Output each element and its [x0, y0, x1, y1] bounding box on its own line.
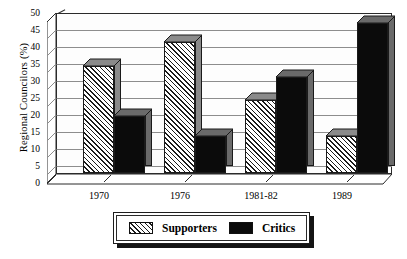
- x-tick-label-1989: 1989: [312, 190, 372, 201]
- bar-supporters-1989: [326, 129, 357, 173]
- bar-face: [83, 66, 114, 173]
- bar-face: [195, 136, 226, 173]
- bar-face: [357, 23, 388, 173]
- y-tick-label: 30: [31, 77, 41, 86]
- chart-figure: Regional Councilors (%) 50 45 40 35 30 2…: [0, 0, 407, 259]
- legend-label-supporters: Supporters: [162, 222, 217, 234]
- chart-legend: Supporters Critics: [113, 212, 310, 244]
- bar-supporters-1981-82: [245, 93, 276, 173]
- bar-top: [83, 59, 122, 67]
- bar-top: [164, 35, 203, 43]
- legend-item-supporters: Supporters: [129, 222, 217, 234]
- plot-area: [47, 13, 392, 187]
- x-tick-label-1981-82: 1981-82: [228, 190, 294, 201]
- bar-face: [164, 42, 195, 173]
- bar-critics-1989: [357, 16, 388, 173]
- bar-face: [114, 116, 145, 173]
- bar-side: [388, 16, 395, 166]
- bar-top: [276, 70, 315, 78]
- y-tick-label: 35: [31, 60, 41, 69]
- gridline: [56, 30, 392, 31]
- y-tick-label: 5: [35, 162, 40, 171]
- bar-face: [245, 100, 276, 173]
- gridline: [56, 47, 392, 48]
- bar-supporters-1970: [83, 59, 114, 173]
- solid-swatch-icon: [229, 222, 253, 234]
- y-tick-label: 10: [31, 145, 41, 154]
- legend-label-critics: Critics: [262, 222, 295, 234]
- bar-face: [326, 136, 357, 173]
- x-tick-label-1970: 1970: [69, 190, 129, 201]
- hatch-swatch-icon: [129, 222, 153, 234]
- bar-side: [307, 70, 314, 166]
- bar-critics-1970: [114, 109, 145, 173]
- plot-floor: [47, 173, 392, 187]
- bar-critics-1976: [195, 129, 226, 173]
- bar-top: [114, 109, 153, 117]
- bar-face: [276, 77, 307, 173]
- y-tick-label: 25: [31, 94, 41, 103]
- bar-top: [357, 16, 396, 24]
- plot-left-wall: [47, 13, 57, 187]
- y-axis-ticks: 50 45 40 35 30 25 20 15 10 5 0: [18, 0, 40, 259]
- bar-side: [145, 109, 152, 166]
- y-tick-label: 20: [31, 111, 41, 120]
- y-tick-label: 15: [31, 128, 41, 137]
- bar-critics-1981-82: [276, 70, 307, 173]
- legend-inner-border: Supporters Critics: [116, 215, 307, 241]
- y-tick-label: 40: [31, 43, 41, 52]
- bar-top: [195, 129, 234, 137]
- bar-supporters-1976: [164, 35, 195, 173]
- legend-item-critics: Critics: [229, 222, 295, 234]
- y-tick-label: 50: [31, 9, 41, 18]
- y-tick-label: 0: [35, 179, 40, 188]
- x-tick-label-1976: 1976: [150, 190, 210, 201]
- y-tick-label: 45: [31, 26, 41, 35]
